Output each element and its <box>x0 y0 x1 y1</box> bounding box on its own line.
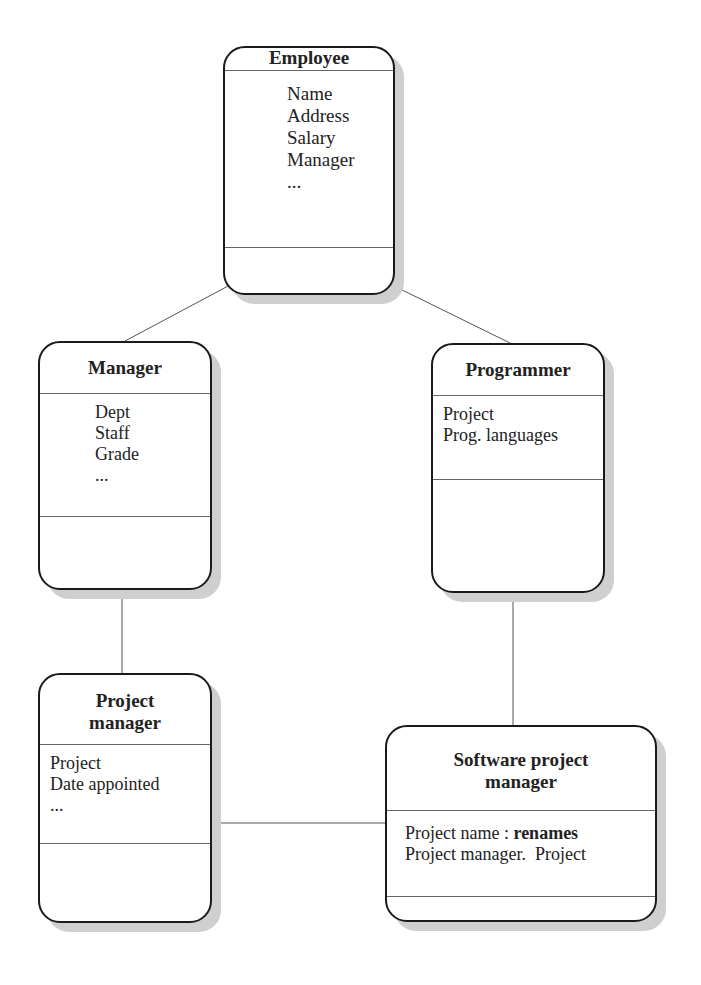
class-title: Employee <box>225 48 393 71</box>
class-title: Software project manager <box>387 727 655 811</box>
link-employee-programmer <box>392 285 510 343</box>
attribute: Manager <box>287 149 393 171</box>
operation-list <box>225 248 393 293</box>
attribute-list: Project name : renames Project manager. … <box>387 811 655 897</box>
attribute-list: Name Address Salary Manager ... <box>225 71 393 248</box>
attribute: Salary <box>287 127 393 149</box>
attribute-list: Dept Staff Grade ... <box>40 394 210 517</box>
class-programmer: Programmer Project Prog. languages <box>431 343 605 593</box>
link-employee-manager <box>125 285 230 341</box>
class-title: Project manager <box>40 675 210 745</box>
class-manager: Manager Dept Staff Grade ... <box>38 341 212 590</box>
class-employee: Employee Name Address Salary Manager ... <box>223 46 395 295</box>
class-project-manager: Project manager Project Date appointed .… <box>38 673 212 923</box>
attribute-list: Project Prog. languages <box>433 396 603 480</box>
attribute: ... <box>287 171 393 193</box>
operation-list <box>40 517 210 588</box>
operation-list <box>387 897 655 920</box>
class-title: Programmer <box>433 345 603 396</box>
attribute: Dept <box>95 402 210 423</box>
attribute: Name <box>287 83 393 105</box>
attribute: ... <box>95 465 210 486</box>
attribute: Grade <box>95 444 210 465</box>
attribute: Project <box>443 404 603 425</box>
class-software-project-manager: Software project manager Project name : … <box>385 725 657 922</box>
class-title: Manager <box>40 343 210 394</box>
attribute: Date appointed <box>50 774 210 795</box>
attribute: ... <box>50 795 210 816</box>
attribute: Project manager. Project <box>405 844 655 865</box>
operation-list <box>40 844 210 921</box>
renames-keyword: renames <box>513 823 578 843</box>
attribute: Project name : renames <box>405 823 655 844</box>
attribute: Project <box>50 753 210 774</box>
operation-list <box>433 480 603 591</box>
attribute: Address <box>287 105 393 127</box>
attribute-list: Project Date appointed ... <box>40 745 210 844</box>
attribute: Prog. languages <box>443 425 603 446</box>
attribute: Staff <box>95 423 210 444</box>
